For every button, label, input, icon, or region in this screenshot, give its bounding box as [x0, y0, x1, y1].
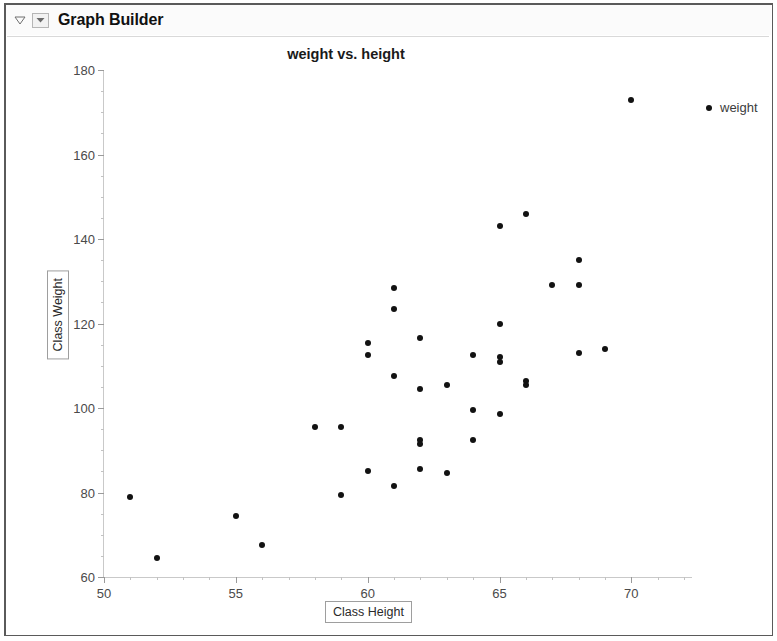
scatter-point[interactable]: [365, 340, 371, 346]
scatter-point[interactable]: [417, 335, 423, 341]
x-tick-major: [500, 577, 501, 583]
y-tick-minor: [101, 366, 104, 367]
scatter-point[interactable]: [338, 424, 344, 430]
scatter-point[interactable]: [523, 211, 529, 217]
scatter-point[interactable]: [391, 306, 397, 312]
screenshot-root: Graph Builder weight vs. height 60801001…: [0, 0, 777, 641]
x-tick-minor: [157, 577, 158, 580]
y-tick-minor: [101, 218, 104, 219]
scatter-point[interactable]: [576, 350, 582, 356]
scatter-point[interactable]: [233, 513, 239, 519]
scatter-point[interactable]: [497, 223, 503, 229]
x-tick-minor: [341, 577, 342, 580]
scatter-point[interactable]: [365, 468, 371, 474]
scatter-point[interactable]: [365, 352, 371, 358]
y-tick-minor: [101, 556, 104, 557]
scatter-point[interactable]: [259, 542, 265, 548]
graph-canvas: weight vs. height 6080100120140160180 50…: [6, 38, 771, 634]
y-tick-minor: [101, 471, 104, 472]
x-tick-minor: [420, 577, 421, 580]
x-axis-title[interactable]: Class Height: [325, 601, 412, 623]
y-tick-minor: [101, 429, 104, 430]
x-tick-label: 50: [97, 586, 111, 601]
page-title: Graph Builder: [58, 11, 163, 29]
x-tick-label: 70: [624, 586, 638, 601]
y-tick-label: 120: [73, 316, 95, 331]
scatter-point[interactable]: [497, 321, 503, 327]
x-tick-label: 55: [229, 586, 243, 601]
scatter-point[interactable]: [497, 359, 503, 365]
titlebar-divider: [7, 36, 769, 37]
y-tick-major: [98, 493, 104, 494]
y-tick-minor: [101, 387, 104, 388]
dropdown-arrow-icon[interactable]: [32, 13, 49, 28]
plot-area[interactable]: 6080100120140160180 5055606570: [103, 70, 692, 578]
y-tick-minor: [101, 514, 104, 515]
scatter-points-layer: [104, 70, 692, 577]
x-tick-minor: [289, 577, 290, 580]
chart-title: weight vs. height: [6, 46, 686, 62]
scatter-point[interactable]: [523, 382, 529, 388]
scatter-point[interactable]: [470, 407, 476, 413]
y-tick-minor: [101, 281, 104, 282]
y-tick-major: [98, 324, 104, 325]
y-tick-label: 60: [81, 570, 95, 585]
scatter-point[interactable]: [444, 470, 450, 476]
x-tick-minor: [552, 577, 553, 580]
triangle-collapse-icon[interactable]: [14, 14, 26, 26]
y-tick-minor: [101, 176, 104, 177]
scatter-point[interactable]: [417, 466, 423, 472]
panel-titlebar: Graph Builder: [6, 5, 771, 35]
y-tick-major: [98, 70, 104, 71]
legend-marker-icon: [706, 105, 712, 111]
scatter-point[interactable]: [576, 257, 582, 263]
y-tick-minor: [101, 197, 104, 198]
scatter-point[interactable]: [602, 346, 608, 352]
x-tick-minor: [605, 577, 606, 580]
scatter-point[interactable]: [576, 282, 582, 288]
y-axis-title[interactable]: Class Weight: [47, 270, 69, 359]
y-tick-minor: [101, 133, 104, 134]
scatter-point[interactable]: [312, 424, 318, 430]
x-tick-minor: [262, 577, 263, 580]
scatter-point[interactable]: [628, 97, 634, 103]
x-tick-major: [631, 577, 632, 583]
scatter-point[interactable]: [391, 373, 397, 379]
legend-item-label[interactable]: weight: [720, 100, 758, 115]
scatter-point[interactable]: [444, 382, 450, 388]
scatter-point[interactable]: [338, 492, 344, 498]
x-tick-label: 60: [360, 586, 374, 601]
y-tick-major: [98, 239, 104, 240]
scatter-point[interactable]: [470, 437, 476, 443]
x-tick-label: 65: [492, 586, 506, 601]
y-tick-minor: [101, 535, 104, 536]
y-tick-major: [98, 155, 104, 156]
x-tick-minor: [209, 577, 210, 580]
scatter-point[interactable]: [549, 282, 555, 288]
y-tick-minor: [101, 260, 104, 261]
x-tick-minor: [526, 577, 527, 580]
x-tick-minor: [579, 577, 580, 580]
x-tick-minor: [473, 577, 474, 580]
scatter-point[interactable]: [497, 411, 503, 417]
scatter-point[interactable]: [391, 483, 397, 489]
y-tick-minor: [101, 302, 104, 303]
x-tick-major: [236, 577, 237, 583]
y-tick-minor: [101, 345, 104, 346]
y-tick-label: 160: [73, 147, 95, 162]
scatter-point[interactable]: [127, 494, 133, 500]
scatter-point[interactable]: [470, 352, 476, 358]
scatter-point[interactable]: [391, 285, 397, 291]
scatter-point[interactable]: [417, 386, 423, 392]
scatter-point[interactable]: [154, 555, 160, 561]
y-tick-label: 140: [73, 232, 95, 247]
y-tick-minor: [101, 112, 104, 113]
y-tick-minor: [101, 450, 104, 451]
y-tick-label: 180: [73, 63, 95, 78]
y-tick-major: [98, 408, 104, 409]
x-tick-minor: [684, 577, 685, 580]
scatter-point[interactable]: [417, 441, 423, 447]
x-tick-minor: [394, 577, 395, 580]
y-tick-minor: [101, 91, 104, 92]
y-tick-label: 80: [81, 485, 95, 500]
